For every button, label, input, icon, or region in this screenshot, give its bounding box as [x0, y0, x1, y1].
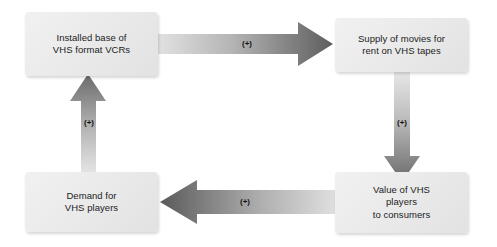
node-supply-of-movies[interactable]: Supply of movies for rent on VHS tapes — [335, 18, 468, 72]
node-supply-of-movies-label: Supply of movies for rent on VHS tapes — [358, 33, 445, 58]
arrow-value-to-demand — [160, 180, 346, 224]
edge-label-supply-to-value: (+) — [397, 119, 407, 127]
node-installed-base[interactable]: Installed base of VHS format VCRs — [25, 12, 158, 76]
node-demand-for-players[interactable]: Demand for VHS players — [25, 172, 158, 232]
node-value-of-players[interactable]: Value of VHS players to consumers — [335, 172, 468, 233]
edge-label-demand-to-installed-base: (+) — [84, 119, 94, 127]
causal-loop-diagram: Installed base of VHS format VCRs Supply… — [0, 0, 497, 247]
edge-label-value-to-demand: (+) — [240, 198, 250, 206]
node-demand-for-players-label: Demand for VHS players — [65, 190, 118, 215]
edge-label-installed-base-to-supply: (+) — [242, 40, 252, 48]
node-installed-base-label: Installed base of VHS format VCRs — [53, 32, 130, 57]
node-value-of-players-label: Value of VHS players to consumers — [373, 184, 431, 222]
